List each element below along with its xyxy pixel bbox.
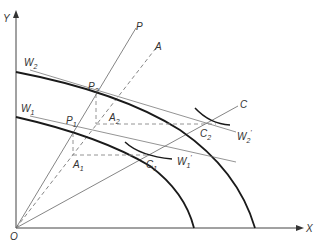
ray-a [16,48,156,228]
diagram-canvas: Y X O P A C W2 W1 W2' W1' P2 A2 C2 P1 A1… [0,0,320,243]
ray-c-label: C [240,99,248,110]
x-axis-label: X [305,223,313,234]
ray-p [16,28,136,228]
ray-p-label: P [136,21,143,32]
point-a1-label: A1 [72,159,84,172]
w1-label: W1 [21,103,34,116]
origin-label: O [10,231,18,242]
indifference-curve-c2 [195,108,230,125]
w1-prime-label: W1' [177,154,192,169]
point-p1-label: P1 [66,115,77,128]
y-axis-arrow-icon [13,10,19,18]
point-a2-label: A2 [108,112,120,125]
point-c1-label: C1 [146,159,157,172]
curve-w1 [16,117,194,228]
y-axis-label: Y [3,13,11,24]
x-axis-arrow-icon [296,225,304,231]
w2-prime-label: W2' [237,129,252,144]
ray-a-label: A [154,41,162,52]
w2-label: W2 [24,57,37,70]
point-c2-label: C2 [200,128,211,141]
